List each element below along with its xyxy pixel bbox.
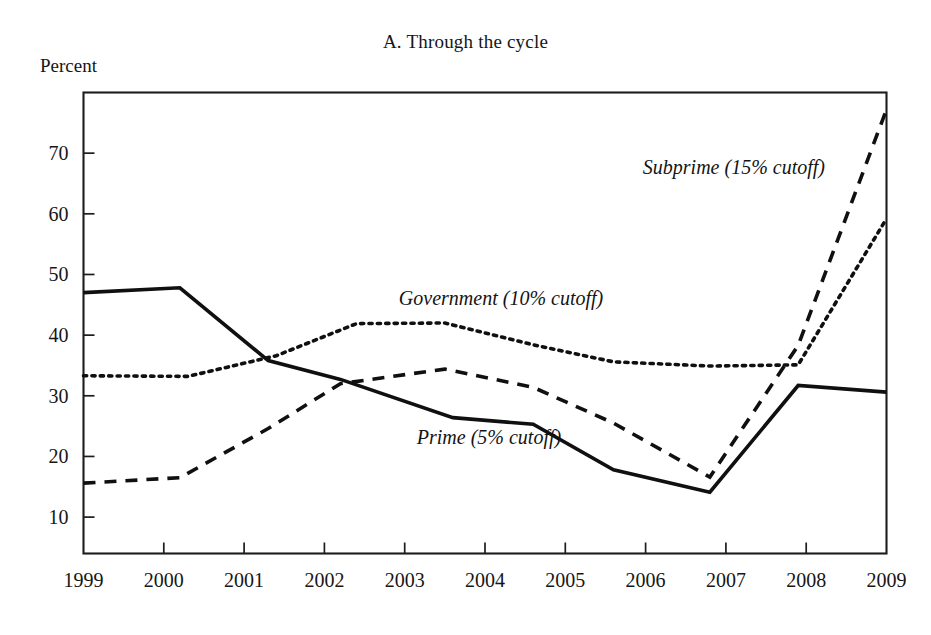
x-axis-tick-label: 2007 [706, 569, 746, 591]
y-axis-tick-label: 70 [49, 142, 69, 164]
x-axis-tick-label: 2002 [304, 569, 344, 591]
series-label: Government (10% cutoff) [399, 287, 604, 310]
y-axis-tick-label: 10 [49, 506, 69, 528]
y-axis-tick-label: 40 [49, 324, 69, 346]
x-axis-tick-label: 2000 [144, 569, 184, 591]
series-line-solid [84, 288, 887, 492]
x-axis-tick-label: 2003 [385, 569, 425, 591]
figure-panel: A. Through the cycle Percent 10203040506… [0, 0, 931, 635]
series-label: Prime (5% cutoff) [416, 426, 562, 449]
x-axis-tick-label: 2006 [626, 569, 666, 591]
y-axis-unit-label: Percent [40, 55, 97, 77]
x-axis-tick-label: 2004 [465, 569, 505, 591]
x-axis-tick-label: 2001 [224, 569, 264, 591]
x-axis-tick-label: 2009 [867, 569, 907, 591]
x-axis-tick-label: 2008 [786, 569, 826, 591]
x-axis-tick-label: 1999 [64, 569, 104, 591]
y-axis-tick-label: 20 [49, 445, 69, 467]
y-axis-tick-label: 50 [49, 263, 69, 285]
line-chart-plot: 1020304050607019992000200120022003200420… [0, 0, 931, 635]
y-axis-tick-label: 30 [49, 385, 69, 407]
x-axis-tick-label: 2005 [545, 569, 585, 591]
series-label: Subprime (15% cutoff) [643, 156, 826, 179]
chart-title: A. Through the cycle [0, 31, 931, 53]
series-label-layer: Prime (5% cutoff)Government (10% cutoff)… [399, 156, 825, 450]
y-axis-tick-label: 60 [49, 203, 69, 225]
